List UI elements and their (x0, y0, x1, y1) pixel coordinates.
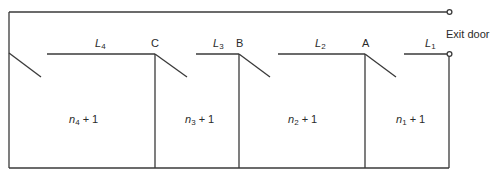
door-b (239, 54, 270, 77)
door-c (155, 54, 187, 77)
corridor-diagram (0, 0, 499, 182)
segment-label-l3-sub: 3 (219, 42, 223, 51)
room-4-suffix: + 1 (80, 113, 99, 125)
exit-hinge-bottom-icon (447, 52, 452, 57)
exit-hinge-top-icon (447, 10, 452, 15)
segment-label-l4-sub: 4 (101, 42, 105, 51)
segment-label-l1: L1 (425, 38, 436, 51)
node-label-b: B (236, 38, 243, 49)
room-label-3: n3 + 1 (185, 114, 214, 127)
segment-label-l2: L2 (315, 38, 326, 51)
segment-label-l4: L4 (95, 38, 106, 51)
room-label-1: n1 + 1 (396, 114, 425, 127)
room-2-suffix: + 1 (299, 113, 318, 125)
room-3-suffix: + 1 (196, 113, 215, 125)
room-label-4: n4 + 1 (69, 114, 98, 127)
segment-label-l2-sub: 2 (321, 42, 325, 51)
exit-door-label: Exit door (446, 29, 489, 40)
door-left (9, 53, 41, 77)
node-label-a: A (362, 38, 369, 49)
segment-label-l3: L3 (213, 38, 224, 51)
door-a (365, 54, 396, 77)
segment-label-l1-sub: 1 (431, 42, 435, 51)
node-label-c: C (151, 38, 159, 49)
room-label-2: n2 + 1 (288, 114, 317, 127)
room-1-suffix: + 1 (407, 113, 426, 125)
